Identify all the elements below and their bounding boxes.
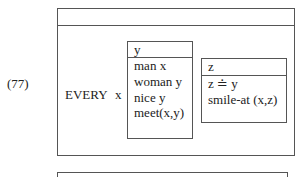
consequent-condition: smile-at (x,z) bbox=[208, 92, 277, 107]
quantifier-variable: x bbox=[115, 87, 122, 102]
antecedent-condition: woman y bbox=[134, 74, 182, 89]
antecedent-condition: nice y bbox=[134, 90, 165, 105]
quantifier-label: EVERY bbox=[65, 87, 108, 102]
antecedent-drs-box: y man x woman y nice y meet(x,y) bbox=[127, 41, 193, 139]
antecedent-universe: y bbox=[134, 42, 141, 57]
consequent-condition: z ≐ y bbox=[208, 76, 238, 91]
consequent-drs-box: z z ≐ y smile-at (x,z) bbox=[201, 58, 287, 123]
antecedent-condition: meet(x,y) bbox=[134, 105, 184, 120]
antecedent-condition: man x bbox=[134, 58, 166, 73]
consequent-universe: z bbox=[208, 59, 214, 74]
example-number: (77) bbox=[7, 76, 29, 91]
outer-universe-divider bbox=[58, 25, 294, 26]
next-drs-box bbox=[57, 172, 288, 177]
